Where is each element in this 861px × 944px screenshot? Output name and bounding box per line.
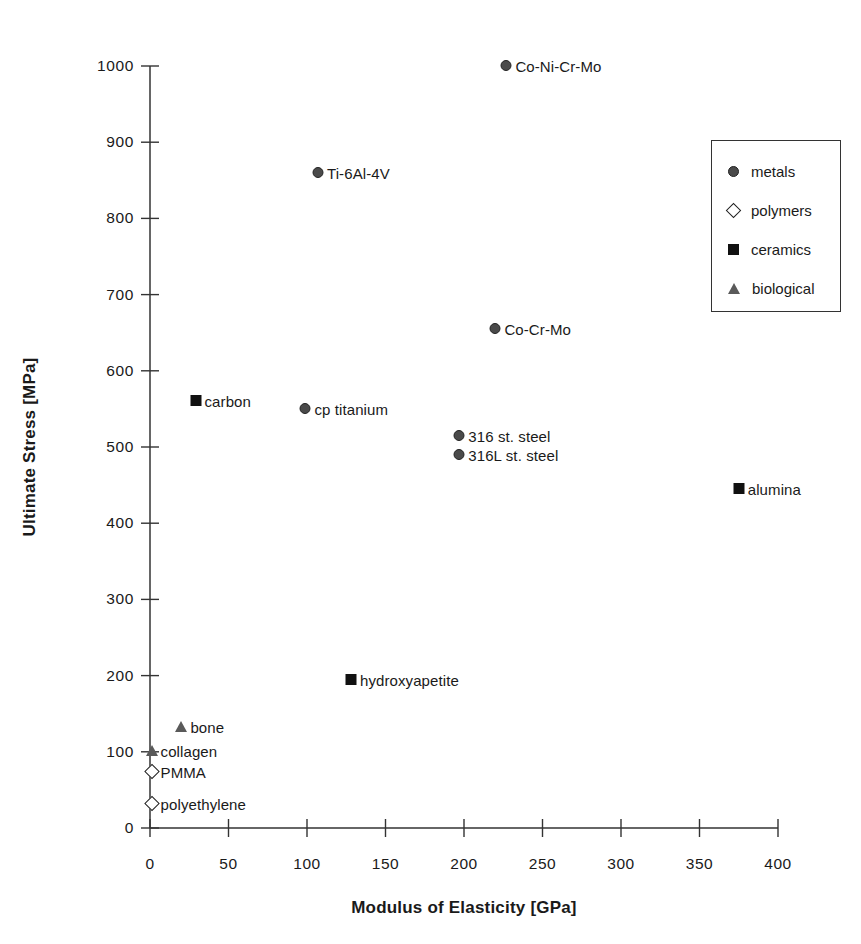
- data-point-label: bone: [190, 718, 224, 735]
- x-axis-title: Modulus of Elasticity [GPa]: [150, 898, 778, 918]
- x-tick-label: 400: [748, 855, 808, 873]
- data-point-biological[interactable]: [146, 742, 158, 760]
- y-tick-label: 700: [76, 286, 134, 304]
- y-tick-label: 500: [76, 438, 134, 456]
- biological-marker-icon: [728, 283, 740, 294]
- data-point-label: alumina: [748, 480, 801, 497]
- ceramics-marker-icon: [728, 244, 739, 255]
- y-tick-label: 1000: [76, 57, 134, 75]
- metals-marker-icon: [300, 403, 311, 414]
- metals-marker-icon: [312, 167, 323, 178]
- data-point-label: Ti-6Al-4V: [327, 164, 390, 181]
- metals-marker-icon: [454, 430, 465, 441]
- metals-marker-icon: [454, 449, 465, 460]
- data-point-label: 316L st. steel: [468, 446, 558, 463]
- y-tick-label: 200: [76, 667, 134, 685]
- y-tick-label: 0: [76, 819, 134, 837]
- x-tick-label: 350: [670, 855, 730, 873]
- legend-item-label: biological: [752, 280, 815, 297]
- data-point-label: PMMA: [161, 764, 206, 781]
- y-tick-label: 100: [76, 743, 134, 761]
- data-point-metals[interactable]: [454, 446, 465, 464]
- x-tick-label: 0: [120, 855, 180, 873]
- polymers-marker-icon: [726, 202, 742, 218]
- polymers-marker-icon: [144, 764, 160, 780]
- legend-item-label: polymers: [751, 202, 812, 219]
- x-tick-label: 250: [513, 855, 573, 873]
- y-axis-title-wrap: Ultimate Stress [MPa]: [0, 0, 46, 828]
- data-point-biological[interactable]: [175, 718, 187, 736]
- y-tick-label: 400: [76, 514, 134, 532]
- data-point-label: Co-Ni-Cr-Mo: [515, 58, 601, 75]
- y-axis-tick-labels: 01002003004005006007008009001000: [76, 0, 134, 944]
- scatter-chart: 01002003004005006007008009001000 0501001…: [0, 0, 861, 944]
- data-point-ceramics[interactable]: [345, 671, 356, 689]
- polymers-marker-icon: [144, 795, 160, 811]
- data-point-label: collagen: [161, 743, 218, 760]
- y-tick-label: 900: [76, 133, 134, 151]
- data-point-label: polyethylene: [161, 795, 246, 812]
- x-tick-label: 150: [356, 855, 416, 873]
- data-point-metals[interactable]: [300, 400, 311, 418]
- ceramics-marker-icon: [345, 674, 356, 685]
- data-point-polymers[interactable]: [146, 763, 157, 781]
- data-point-label: 316 st. steel: [468, 427, 550, 444]
- x-tick-label: 300: [591, 855, 651, 873]
- metals-marker-icon: [728, 166, 739, 177]
- data-point-metals[interactable]: [490, 320, 501, 338]
- x-tick-label: 200: [434, 855, 494, 873]
- legend-item-label: ceramics: [751, 241, 811, 258]
- ceramics-marker-icon: [733, 483, 744, 494]
- data-point-metals[interactable]: [501, 57, 512, 75]
- legend-item-ceramics[interactable]: ceramics: [728, 239, 811, 259]
- y-axis-title: Ultimate Stress [MPa]: [20, 287, 40, 607]
- data-point-ceramics[interactable]: [190, 392, 201, 410]
- data-point-label: Co-Cr-Mo: [504, 320, 571, 337]
- biological-marker-icon: [146, 745, 158, 756]
- data-point-metals[interactable]: [312, 164, 323, 182]
- data-point-polymers[interactable]: [146, 795, 157, 813]
- legend-item-label: metals: [751, 163, 795, 180]
- legend-item-polymers[interactable]: polymers: [728, 200, 812, 220]
- legend-item-biological[interactable]: biological: [728, 278, 815, 298]
- ceramics-marker-icon: [190, 395, 201, 406]
- y-tick-label: 800: [76, 209, 134, 227]
- y-tick-label: 300: [76, 590, 134, 608]
- data-point-ceramics[interactable]: [733, 480, 744, 498]
- metals-marker-icon: [501, 60, 512, 71]
- y-tick-label: 600: [76, 362, 134, 380]
- x-tick-label: 50: [199, 855, 259, 873]
- legend-item-metals[interactable]: metals: [728, 161, 795, 181]
- data-point-label: cp titanium: [314, 400, 388, 417]
- data-point-label: hydroxyapetite: [360, 672, 459, 689]
- data-point-metals[interactable]: [454, 427, 465, 445]
- biological-marker-icon: [175, 721, 187, 732]
- metals-marker-icon: [490, 323, 501, 334]
- x-tick-label: 100: [277, 855, 337, 873]
- data-point-label: carbon: [205, 393, 251, 410]
- chart-legend: metalspolymersceramicsbiological: [711, 140, 841, 312]
